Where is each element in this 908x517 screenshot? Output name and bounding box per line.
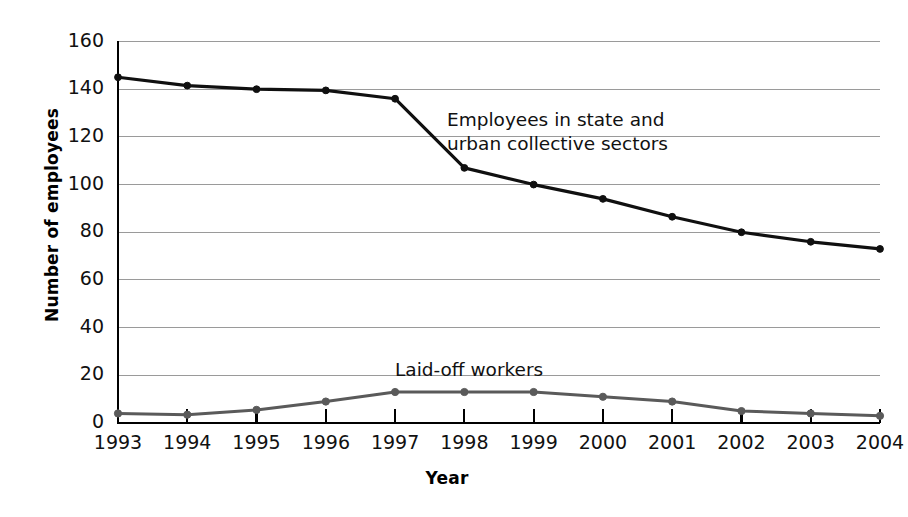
data-point: [253, 406, 260, 413]
series-employees: [115, 74, 884, 252]
series-line: [118, 77, 880, 249]
x-axis-tick-label: 1997: [360, 431, 430, 453]
x-axis-tick-label: 1999: [499, 431, 569, 453]
laid-off-series-annotation: Laid-off workers: [395, 358, 543, 382]
y-axis-tick-label: 60: [40, 267, 104, 289]
y-axis-tick-label: 100: [40, 172, 104, 194]
x-axis-tick-label: 2002: [706, 431, 776, 453]
gridlines: [118, 42, 880, 376]
y-axis-tick-label: 140: [40, 76, 104, 98]
data-point: [669, 213, 676, 220]
data-point: [807, 410, 814, 417]
data-point: [807, 238, 814, 245]
x-axis-tick-label: 1993: [83, 431, 153, 453]
data-point: [877, 246, 884, 253]
data-point: [738, 407, 745, 414]
data-point: [461, 164, 468, 171]
laid-off-series-annotation-line1: Laid-off workers: [395, 358, 543, 382]
data-point: [392, 95, 399, 102]
data-point: [115, 74, 122, 81]
x-axis-tick-label: 1995: [222, 431, 292, 453]
data-point: [600, 195, 607, 202]
main-series-annotation-line1: Employees in state and: [447, 108, 668, 132]
main-series-annotation: Employees in state and urban collective …: [447, 108, 668, 155]
x-axis-tick-label: 2004: [845, 431, 908, 453]
y-axis-tick-label: 80: [40, 219, 104, 241]
data-point: [599, 393, 606, 400]
y-axis-tick-label: 160: [40, 29, 104, 51]
y-axis-tick-label: 20: [40, 362, 104, 384]
data-point: [530, 181, 537, 188]
main-series-annotation-line2: urban collective sectors: [447, 132, 668, 156]
data-point: [391, 388, 398, 395]
data-point: [114, 410, 121, 417]
data-point: [322, 398, 329, 405]
x-axis-tick-label: 1996: [291, 431, 361, 453]
y-axis-tick-label: 0: [40, 410, 104, 432]
y-axis-tick-label: 40: [40, 315, 104, 337]
data-point: [322, 87, 329, 94]
series-laid-off-workers: [114, 388, 883, 419]
y-axis-tick-label: 120: [40, 124, 104, 146]
x-axis-tick-label: 2003: [776, 431, 846, 453]
data-point: [530, 388, 537, 395]
x-axis-tick-label: 2000: [568, 431, 638, 453]
x-axis-tick-label: 1994: [152, 431, 222, 453]
data-point: [184, 411, 191, 418]
data-point: [253, 86, 260, 93]
data-point: [461, 388, 468, 395]
series-line: [118, 392, 880, 416]
data-point: [738, 229, 745, 236]
data-point: [876, 412, 883, 419]
data-point: [184, 82, 191, 89]
x-axis-tick-label: 1998: [429, 431, 499, 453]
x-axis-title: Year: [0, 468, 894, 488]
data-point: [669, 398, 676, 405]
x-axis-tick-label: 2001: [637, 431, 707, 453]
